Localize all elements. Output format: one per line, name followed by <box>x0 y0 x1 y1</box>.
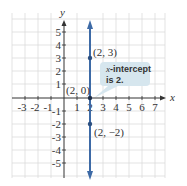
y-axis-label: y <box>59 6 65 18</box>
svg-text:3: 3 <box>100 101 106 113</box>
svg-text:1: 1 <box>56 78 62 90</box>
svg-text:5: 5 <box>56 26 62 38</box>
callout-line-2: is 2. <box>106 75 124 85</box>
point-label-2-0: (2, 0) <box>66 84 90 97</box>
x-intercept-callout: x-intercept is 2. <box>94 62 151 98</box>
svg-text:4: 4 <box>56 39 62 51</box>
coordinate-graph: x-intercept is 2. <box>0 0 187 186</box>
y-axis <box>62 20 67 178</box>
svg-text:-1: -1 <box>52 105 61 117</box>
svg-text:1: 1 <box>74 101 80 113</box>
svg-text:4: 4 <box>113 101 119 113</box>
svg-text:5: 5 <box>126 101 132 113</box>
point-2-neg2 <box>88 122 92 126</box>
svg-text:7: 7 <box>152 101 158 113</box>
y-axis-arrow-icon <box>62 20 67 26</box>
svg-text:-2: -2 <box>30 101 39 113</box>
svg-text:-2: -2 <box>52 118 61 130</box>
svg-text:-4: -4 <box>52 144 62 156</box>
svg-text:3: 3 <box>56 52 62 64</box>
line-arrow-down-icon <box>87 171 93 180</box>
svg-text:-3: -3 <box>52 131 62 143</box>
svg-text:-3: -3 <box>17 101 27 113</box>
point-label-2-neg2: (2, −2) <box>94 126 124 139</box>
x-axis-label: x <box>169 91 175 103</box>
point-2-3 <box>88 56 92 60</box>
callout-line-1: x-intercept <box>105 64 151 74</box>
svg-text:2: 2 <box>56 65 62 77</box>
line-arrow-up-icon <box>87 20 93 29</box>
svg-text:6: 6 <box>139 101 145 113</box>
point-label-2-3: (2, 3) <box>93 46 117 59</box>
svg-text:-5: -5 <box>52 157 62 169</box>
point-2-0 <box>88 96 92 100</box>
